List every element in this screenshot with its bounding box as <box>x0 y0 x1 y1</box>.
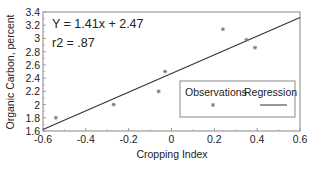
regression-equation: Y = 1.41x + 2.47 <box>52 17 144 31</box>
y-tick-label: 2.8 <box>25 46 40 58</box>
legend-observation-marker <box>211 103 215 107</box>
y-tick-label: 2.4 <box>25 72 40 84</box>
x-tick-label: 0 <box>169 133 175 145</box>
y-tick-label: 2.2 <box>25 85 40 97</box>
observation-point <box>244 38 248 42</box>
y-tick-label: 3.2 <box>25 19 40 31</box>
observation-point <box>54 116 58 120</box>
x-tick-label: -0.4 <box>77 133 95 145</box>
x-tick-label: 0.4 <box>250 133 265 145</box>
observation-point <box>221 27 225 31</box>
legend-observations-label: Observations <box>185 86 247 98</box>
y-axis-label: Organic Carbon, percent <box>4 14 16 129</box>
legend: Observations Regression <box>180 81 297 117</box>
observation-point <box>253 46 257 50</box>
x-tick-label: 0.2 <box>207 133 222 145</box>
y-tick-label: 3 <box>34 32 40 44</box>
observation-point <box>157 89 161 93</box>
legend-regression-label: Regression <box>244 86 297 98</box>
r-squared: r2 = .87 <box>52 36 95 50</box>
y-tick-label: 3.4 <box>25 6 40 18</box>
observation-point <box>163 70 167 74</box>
y-tick-label: 2.6 <box>25 59 40 71</box>
x-tick-label: -0.2 <box>120 133 138 145</box>
y-tick-label: 2 <box>34 99 40 111</box>
x-tick-label: -0.6 <box>34 133 52 145</box>
scatter-chart: 1.61.822.22.42.62.833.23.4 -0.6-0.4-0.20… <box>0 0 317 169</box>
observation-point <box>112 103 116 107</box>
x-axis-label: Cropping Index <box>136 148 208 160</box>
x-tick-label: 0.6 <box>293 133 308 145</box>
y-tick-label: 1.8 <box>25 112 40 124</box>
